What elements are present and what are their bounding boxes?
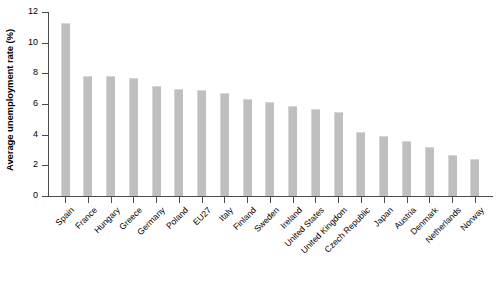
- x-tick: [361, 197, 362, 203]
- bar[interactable]: [106, 76, 115, 196]
- x-tick: [429, 197, 430, 203]
- x-tick: [156, 197, 157, 203]
- bar[interactable]: [334, 112, 343, 196]
- x-tick: [475, 197, 476, 203]
- bar[interactable]: [243, 99, 252, 196]
- bar[interactable]: [129, 78, 138, 196]
- x-tick: [88, 197, 89, 203]
- bar[interactable]: [425, 147, 434, 196]
- bar[interactable]: [470, 159, 479, 196]
- y-tick-label: 6: [0, 99, 38, 108]
- y-tick: [42, 196, 48, 197]
- bar[interactable]: [220, 93, 229, 196]
- y-tick-label: 8: [0, 68, 38, 77]
- bar[interactable]: [83, 76, 92, 196]
- x-tick: [452, 197, 453, 203]
- bar[interactable]: [288, 106, 297, 196]
- y-tick-label: 2: [0, 160, 38, 169]
- x-tick: [133, 197, 134, 203]
- x-tick: [179, 197, 180, 203]
- x-tick: [407, 197, 408, 203]
- x-tick: [338, 197, 339, 203]
- bar[interactable]: [448, 155, 457, 196]
- y-tick-label: 0: [0, 191, 38, 200]
- bar[interactable]: [379, 136, 388, 196]
- bar[interactable]: [152, 86, 161, 196]
- x-tick: [65, 197, 66, 203]
- x-tick: [202, 197, 203, 203]
- y-tick-label: 12: [0, 7, 38, 16]
- x-tick: [111, 197, 112, 203]
- x-tick: [270, 197, 271, 203]
- bar[interactable]: [197, 90, 206, 196]
- bar[interactable]: [265, 102, 274, 196]
- x-tick: [315, 197, 316, 203]
- bar[interactable]: [402, 141, 411, 196]
- bar[interactable]: [311, 109, 320, 196]
- x-tick: [224, 197, 225, 203]
- y-tick-label: 10: [0, 38, 38, 47]
- plot-area: [48, 12, 493, 196]
- x-tick: [384, 197, 385, 203]
- y-tick-label: 4: [0, 130, 38, 139]
- bar-chart: Average unemployment rate (%) 024681012 …: [0, 0, 501, 286]
- x-tick: [247, 197, 248, 203]
- bar[interactable]: [356, 132, 365, 196]
- bar[interactable]: [174, 89, 183, 196]
- bar[interactable]: [61, 23, 70, 196]
- x-tick: [293, 197, 294, 203]
